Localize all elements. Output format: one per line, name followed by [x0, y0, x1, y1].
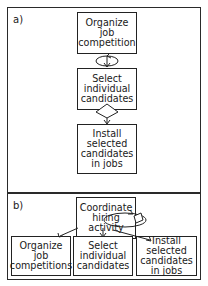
parent-coordinate-hiring-activity: Coordinate hiring activity: [76, 197, 136, 239]
child-select-individual-candidates: Select individual candidates: [73, 236, 133, 276]
step-install-selected-candidates: Install selected candidates in jobs: [77, 124, 137, 174]
child-install-selected-candidates: Install selected candidates in jobs: [136, 236, 197, 276]
child-organize-job-competitions: Organize job competitions: [11, 236, 71, 276]
step-organize-job-competition: Organize job competition: [77, 12, 137, 54]
step-select-individual-candidates: Select individual candidates: [77, 68, 137, 110]
panel-b-label: b): [13, 201, 23, 211]
panel-a-label: a): [13, 15, 23, 25]
